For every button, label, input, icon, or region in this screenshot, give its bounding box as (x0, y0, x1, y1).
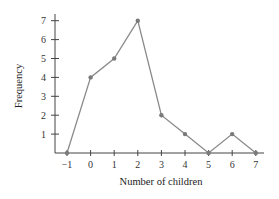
frequency-polygon-chart: 1234567 −101234567 Frequency Number of c… (0, 0, 279, 199)
data-point-marker (65, 151, 69, 155)
x-tick-label: 2 (135, 159, 140, 170)
data-point-marker (88, 75, 92, 79)
data-point-marker (112, 56, 116, 60)
x-tick-label: 5 (206, 159, 211, 170)
data-point-marker (206, 151, 210, 155)
y-tick-label: 2 (41, 110, 46, 121)
x-tick-label: −1 (62, 159, 73, 170)
x-tick-label: 6 (230, 159, 235, 170)
x-tick-label: 0 (88, 159, 93, 170)
data-point-marker (136, 19, 140, 23)
data-point-marker (254, 151, 258, 155)
data-point-marker (230, 132, 234, 136)
y-tick-label: 7 (41, 15, 46, 26)
y-tick-label: 5 (41, 53, 46, 64)
data-series (65, 19, 258, 156)
x-tick-label: 1 (112, 159, 117, 170)
y-axis-title: Frequency (13, 63, 24, 108)
data-point-marker (159, 113, 163, 117)
data-point-marker (183, 132, 187, 136)
y-tick-label: 4 (41, 72, 46, 83)
x-tick-label: 7 (253, 159, 258, 170)
y-tick-label: 1 (41, 129, 46, 140)
x-tick-label: 3 (159, 159, 164, 170)
y-tick-label: 6 (41, 34, 46, 45)
y-tick-label: 3 (41, 91, 46, 102)
frequency-line (67, 21, 256, 153)
y-axis-ticks: 1234567 (41, 15, 59, 139)
x-tick-label: 4 (183, 159, 188, 170)
x-axis-title: Number of children (120, 176, 204, 187)
